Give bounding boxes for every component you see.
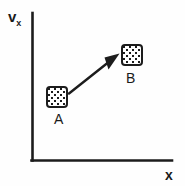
state-box-a <box>46 86 68 108</box>
y-axis-label: vx <box>8 9 21 28</box>
phase-space-diagram: vx x A B <box>0 0 185 186</box>
axes-group <box>0 0 185 186</box>
state-label-a: A <box>54 112 63 126</box>
transition-arrow <box>69 54 120 94</box>
y-axis-label-subscript: x <box>16 18 21 28</box>
state-box-b <box>121 44 143 66</box>
arrow-head-icon <box>105 54 120 70</box>
x-axis-label: x <box>165 168 173 182</box>
arrow-shaft <box>69 61 110 94</box>
state-label-b: B <box>126 71 135 85</box>
